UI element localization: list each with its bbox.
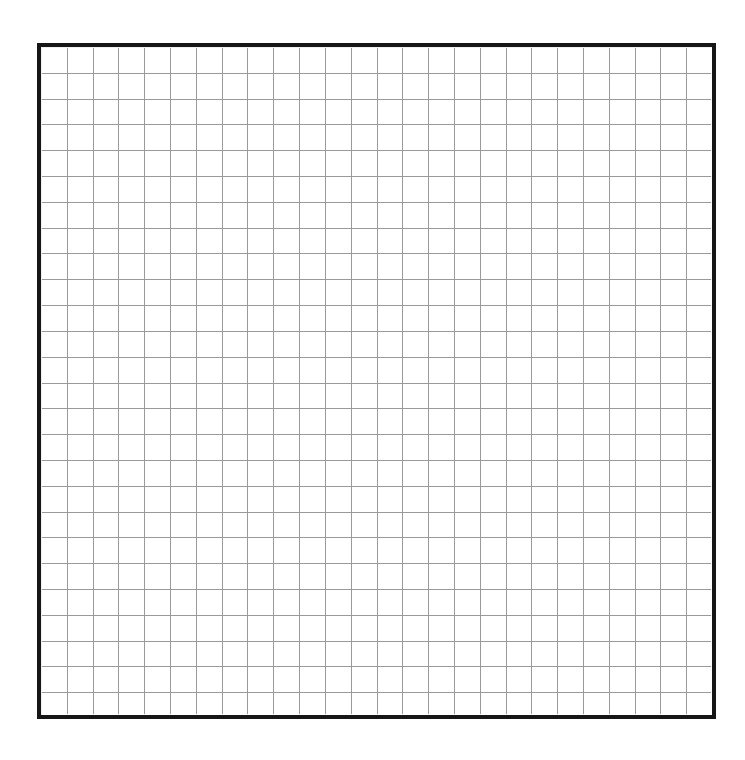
- grid-surface[interactable]: [41, 47, 712, 715]
- canvas-stage: [0, 0, 745, 760]
- grid-panel[interactable]: [37, 43, 716, 719]
